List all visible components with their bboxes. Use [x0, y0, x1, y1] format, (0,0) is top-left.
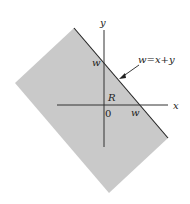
- x-intercept-label: w: [131, 107, 140, 118]
- region-diagram: y x w w 0 R w=x+y: [0, 0, 190, 204]
- y-intercept-label: w: [92, 57, 101, 68]
- x-axis-label: x: [173, 100, 179, 111]
- arrow-head-icon: [119, 73, 126, 79]
- origin-label: 0: [105, 108, 111, 119]
- y-axis-label: y: [99, 17, 106, 28]
- boundary-line-label: w=x+y: [138, 54, 175, 65]
- region-label: R: [107, 92, 116, 103]
